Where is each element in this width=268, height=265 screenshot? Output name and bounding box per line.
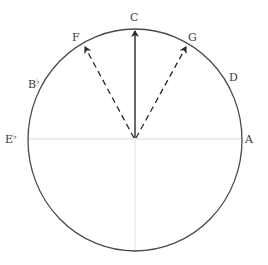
label-c: C bbox=[130, 12, 138, 23]
label-g: G bbox=[188, 32, 197, 43]
flat-sign: ♭ bbox=[13, 132, 17, 141]
label-b-flat: B♭ bbox=[28, 79, 40, 90]
arrow-to-g bbox=[136, 47, 186, 138]
flat-sign: ♭ bbox=[36, 77, 40, 86]
label-d: D bbox=[229, 72, 238, 83]
label-e-flat: E♭ bbox=[5, 134, 17, 145]
label-f: F bbox=[72, 32, 80, 43]
pitch-circle-diagram bbox=[0, 0, 268, 265]
label-a: A bbox=[245, 134, 253, 145]
arrow-to-f bbox=[85, 47, 134, 138]
